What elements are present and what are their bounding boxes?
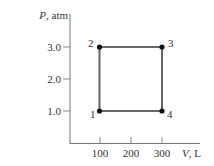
- x-tick-label-100: 100: [92, 147, 109, 159]
- point-label-4: 4: [167, 108, 173, 120]
- point-label-3: 3: [168, 37, 174, 49]
- x-axis-unit: , L: [189, 147, 202, 159]
- y-axis-unit: , atm: [46, 9, 68, 21]
- pv-diagram: 3.0 2.0 1.0 100 200 300 P, atm V, L 1 2 …: [0, 0, 214, 166]
- point-label-2: 2: [88, 37, 94, 49]
- y-tick-label-2: 2.0: [47, 73, 61, 85]
- y-tick-label-3: 3.0: [47, 41, 61, 53]
- y-tick-label-1: 1.0: [47, 105, 61, 117]
- y-axis-title: P, atm: [38, 9, 68, 21]
- point-1: [97, 108, 102, 113]
- point-4: [159, 108, 164, 113]
- point-label-1: 1: [90, 108, 96, 120]
- point-2: [97, 44, 102, 49]
- point-3: [159, 44, 164, 49]
- x-tick-label-300: 300: [154, 147, 171, 159]
- x-axis-title: V, L: [182, 147, 201, 159]
- cycle-path: [100, 47, 163, 111]
- x-tick-label-200: 200: [123, 147, 140, 159]
